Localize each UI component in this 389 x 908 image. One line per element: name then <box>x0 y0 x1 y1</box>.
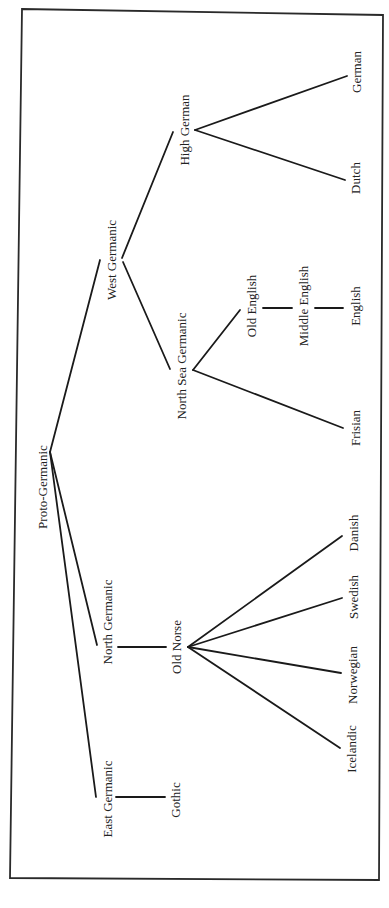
edge-proto-north <box>50 452 97 645</box>
language-tree-diagram: Proto-Germanic West Germanic North Germa… <box>0 0 389 908</box>
node-german: German <box>349 51 364 93</box>
edge-oldnorse-norwegian <box>188 647 341 673</box>
edge-northsea-oldenglish <box>193 310 240 370</box>
node-danish: Danish <box>346 514 361 551</box>
node-swedish: Swedish <box>346 574 361 619</box>
node-proto-germanic: Proto-Germanic <box>35 445 50 529</box>
node-old-norse: Old Norse <box>169 620 184 674</box>
edge-highgerman-dutch <box>195 130 345 180</box>
node-norwegian: Norwegian <box>345 646 360 704</box>
node-high-german: High German <box>177 94 192 166</box>
edge-oldnorse-danish <box>188 536 342 647</box>
edge-northsea-frisian <box>193 370 343 428</box>
node-frisian: Frisian <box>348 409 363 446</box>
edge-oldnorse-icelandic <box>188 647 340 748</box>
node-middle-english: Middle English <box>296 265 311 346</box>
edge-proto-east <box>50 452 96 797</box>
node-north-sea-germanic: North Sea Germanic <box>174 312 189 419</box>
node-north-germanic: North Germanic <box>100 579 115 664</box>
node-west-germanic: West Germanic <box>104 220 119 300</box>
edge-west-northsea <box>123 262 170 369</box>
edge-highgerman-german <box>195 76 347 130</box>
edge-oldnorse-swedish <box>188 598 342 647</box>
node-east-germanic: East Germanic <box>100 760 115 837</box>
diagram-frame <box>10 9 383 880</box>
node-gothic: Gothic <box>168 782 183 818</box>
edge-west-highgerman <box>122 132 173 258</box>
node-icelandic: Icelandic <box>344 725 359 773</box>
node-english: English <box>348 286 363 326</box>
node-dutch: Dutch <box>348 162 363 194</box>
edge-proto-west <box>50 260 100 452</box>
node-old-english: Old English <box>244 274 259 337</box>
